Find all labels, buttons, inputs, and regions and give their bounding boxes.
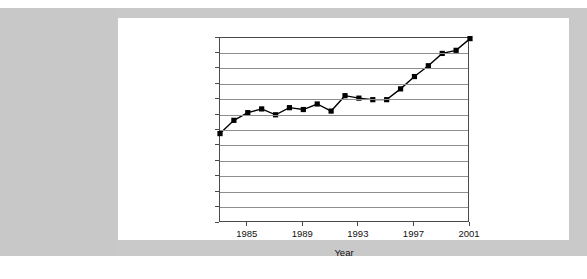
x-tick-label: 1989 xyxy=(282,229,322,239)
x-tick-mark xyxy=(469,222,470,226)
grid-line xyxy=(220,99,468,100)
grid-line xyxy=(220,130,468,131)
page-backdrop-left-band xyxy=(0,8,118,256)
data-point-marker xyxy=(398,86,403,91)
plot-area xyxy=(219,37,469,222)
grid-line xyxy=(220,115,468,116)
x-tick-label: 2001 xyxy=(449,229,489,239)
grid-line xyxy=(220,145,468,146)
data-point-marker xyxy=(467,36,472,41)
data-point-marker xyxy=(217,131,222,136)
data-point-marker xyxy=(342,93,347,98)
grid-line xyxy=(220,192,468,193)
data-point-marker xyxy=(412,74,417,79)
data-point-marker xyxy=(315,101,320,106)
grid-line xyxy=(220,207,468,208)
x-tick-mark xyxy=(357,222,358,226)
grid-line xyxy=(220,161,468,162)
x-tick-mark xyxy=(413,222,414,226)
screenshot-root: 0.00.51.01.52.02.53.03.54.04.55.05.56.0 … xyxy=(0,0,587,279)
x-tick-mark xyxy=(302,222,303,226)
x-tick-label: 1997 xyxy=(393,229,433,239)
data-point-marker xyxy=(287,105,292,110)
data-point-marker xyxy=(231,118,236,123)
grid-line xyxy=(220,68,468,69)
figure-card: 0.00.51.01.52.02.53.03.54.04.55.05.56.0 … xyxy=(118,18,569,240)
x-tick-mark xyxy=(246,222,247,226)
data-point-marker xyxy=(301,107,306,112)
grid-line xyxy=(220,84,468,85)
x-tick-label: 1993 xyxy=(338,229,378,239)
data-point-marker xyxy=(329,108,334,113)
x-axis-title: Year xyxy=(219,247,469,258)
data-point-marker xyxy=(259,106,264,111)
grid-line xyxy=(220,53,468,54)
grid-line xyxy=(220,176,468,177)
x-tick-label: 1985 xyxy=(227,229,267,239)
